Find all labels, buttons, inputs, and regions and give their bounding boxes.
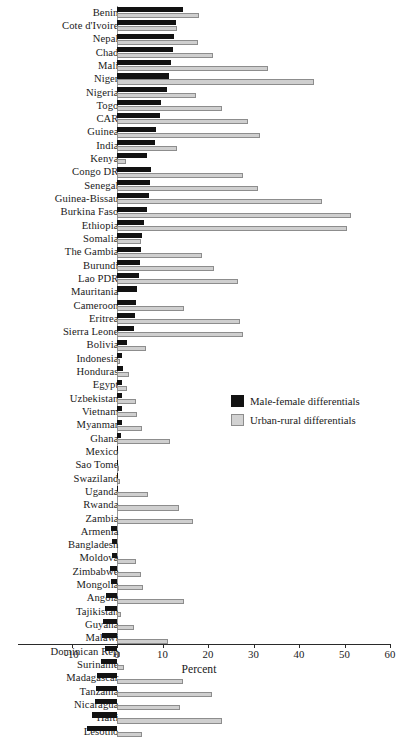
bar-male-female [117, 247, 141, 252]
bar-urban-rural [117, 386, 127, 391]
bar-urban-rural [117, 625, 134, 630]
x-tick [345, 644, 346, 648]
chart-row: Bangladesh [0, 539, 398, 552]
chart-row: Honduras [0, 365, 398, 378]
bar-group [0, 272, 398, 285]
chart-row: Angola [0, 592, 398, 605]
bar-urban-rural [117, 599, 184, 604]
bar-male-female [92, 712, 117, 717]
chart-row: Tajikistan [0, 605, 398, 618]
chart-row: Bolivia [0, 339, 398, 352]
chart-row: Haiti [0, 712, 398, 725]
bar-male-female [111, 526, 117, 531]
bar-group [0, 299, 398, 312]
chart-row: Guyana [0, 618, 398, 631]
bar-male-female [117, 273, 139, 278]
bar-urban-rural [117, 13, 199, 18]
bar-urban-rural [117, 479, 120, 484]
bar-group [0, 19, 398, 32]
bar-group [0, 365, 398, 378]
bar-group [0, 113, 398, 126]
bar-urban-rural [117, 612, 121, 617]
chart-row: Somalia [0, 232, 398, 245]
bar-urban-rural [117, 426, 142, 431]
bar-urban-rural [117, 253, 202, 258]
bar-male-female [117, 473, 118, 478]
bar-urban-rural [117, 53, 213, 58]
bar-male-female [117, 140, 155, 145]
bar-urban-rural [117, 186, 258, 191]
bar-urban-rural [117, 159, 126, 164]
chart-row: Rwanda [0, 499, 398, 512]
bar-urban-rural [117, 79, 314, 84]
bar-male-female [117, 393, 122, 398]
bar-group [0, 232, 398, 245]
chart-row: Mauritania [0, 286, 398, 299]
bar-male-female [87, 726, 117, 731]
bar-male-female [103, 619, 117, 624]
chart-row: Moldova [0, 552, 398, 565]
x-tick-label: 60 [385, 648, 396, 660]
chart-row: CAR [0, 113, 398, 126]
bar-group [0, 6, 398, 19]
bar-male-female [102, 633, 117, 638]
bar-group [0, 192, 398, 205]
x-tick-label: 0 [114, 648, 119, 660]
bar-group [0, 326, 398, 339]
bar-male-female [106, 593, 117, 598]
bar-group [0, 246, 398, 259]
bar-male-female [105, 606, 117, 611]
x-tick [299, 644, 300, 648]
bar-urban-rural [117, 226, 347, 231]
chart-row: Guinea [0, 126, 398, 139]
bar-male-female [117, 406, 122, 411]
bar-group [0, 339, 398, 352]
bar-male-female [117, 87, 167, 92]
bar-urban-rural [117, 572, 141, 577]
x-axis-line [18, 644, 390, 645]
chart-row: Senegal [0, 179, 398, 192]
chart-row: Eritrea [0, 312, 398, 325]
bar-urban-rural [117, 519, 193, 524]
legend-label-male-female: Male-female differentials [250, 395, 360, 407]
chart-row: Mali [0, 59, 398, 72]
bar-urban-rural [117, 319, 240, 324]
chart-row: Nepal [0, 33, 398, 46]
chart-row: Sao Tome [0, 459, 398, 472]
bar-group [0, 139, 398, 152]
bar-male-female [117, 207, 147, 212]
bar-group [0, 219, 398, 232]
bar-male-female [117, 300, 136, 305]
bar-male-female [117, 353, 122, 358]
chart-row: Zambia [0, 512, 398, 525]
bar-male-female [95, 699, 117, 704]
bar-urban-rural [117, 133, 260, 138]
x-tick-label: 40 [294, 648, 305, 660]
bar-group [0, 525, 398, 538]
bar-urban-rural [117, 173, 243, 178]
bar-male-female [117, 180, 150, 185]
bar-male-female [117, 113, 160, 118]
x-tick [254, 644, 255, 648]
bar-urban-rural [117, 332, 243, 337]
chart-row: Lesotho [0, 725, 398, 738]
bar-urban-rural [117, 372, 129, 377]
bar-group [0, 499, 398, 512]
bar-urban-rural [117, 412, 137, 417]
bar-urban-rural [117, 213, 351, 218]
chart-row: Nigeria [0, 86, 398, 99]
chart-row: Armenia [0, 525, 398, 538]
bar-group [0, 432, 398, 445]
bar-urban-rural [117, 266, 214, 271]
chart-row: Zimbabwe [0, 565, 398, 578]
bar-urban-rural [117, 119, 248, 124]
x-tick [117, 644, 118, 648]
bar-group [0, 592, 398, 605]
bar-male-female [117, 486, 118, 491]
bar-group [0, 259, 398, 272]
chart-row: Ethiopia [0, 219, 398, 232]
bar-group [0, 552, 398, 565]
chart-row: Kenya [0, 152, 398, 165]
bar-group [0, 206, 398, 219]
